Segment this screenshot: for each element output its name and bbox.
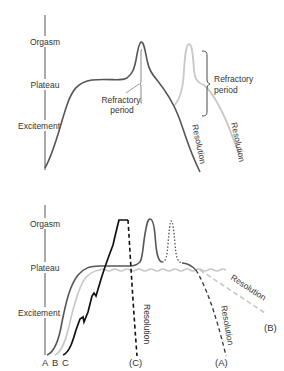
resolution-label-c: Resolution	[142, 304, 152, 344]
pattern-a-second-orgasm	[162, 221, 182, 263]
bottom-label-plateau: Plateau	[31, 263, 60, 273]
top-second-orgasm-curve	[175, 44, 240, 155]
top-refractory-label-1a: Refractory	[101, 95, 141, 105]
top-resolution-label-1: Resolution	[190, 123, 208, 165]
resolution-label-a: Resolution	[219, 305, 236, 347]
pattern-c-curve	[63, 220, 128, 355]
bottom-label-orgasm: Orgasm	[30, 219, 60, 229]
top-label-plateau: Plateau	[31, 80, 60, 90]
top-label-excitement: Excitement	[18, 121, 61, 131]
start-label-a: A	[42, 357, 49, 368]
sexual-response-diagram: Orgasm Plateau Excitement Refractory per…	[0, 0, 284, 371]
bottom-diagram: Orgasm Plateau Excitement A B C (C) (A) …	[14, 205, 277, 368]
top-refractory-label-2b: period	[214, 85, 238, 95]
resolution-label-b: Resolution	[229, 272, 268, 302]
top-resolution-label-2: Resolution	[229, 121, 247, 163]
start-label-c: C	[62, 357, 69, 368]
end-label-b: (B)	[264, 322, 277, 333]
top-refractory-bracket-2	[202, 51, 210, 116]
top-refractory-label-1b: period	[110, 105, 134, 115]
top-refractory-label-2a: Refractory	[214, 74, 254, 84]
end-label-c: (C)	[129, 357, 142, 368]
start-label-b: B	[52, 357, 58, 368]
bottom-label-excitement: Excitement	[18, 308, 61, 318]
pattern-b-curve	[55, 269, 226, 355]
pattern-c-resolution	[128, 220, 137, 356]
top-label-orgasm: Orgasm	[30, 37, 60, 47]
end-label-a: (A)	[215, 357, 228, 368]
top-diagram: Orgasm Plateau Excitement Refractory per…	[14, 15, 254, 172]
